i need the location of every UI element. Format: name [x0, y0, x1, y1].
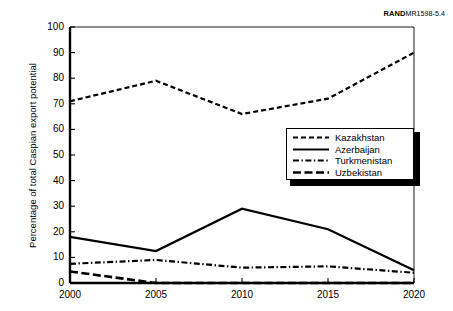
legend-line-swatch-icon: [292, 132, 330, 143]
chart-legend: KazakhstanAzerbaijanTurkmenistanUzbekist…: [286, 128, 418, 184]
legend-item-label: Uzbekistan: [330, 167, 382, 178]
legend-item-label: Kazakhstan: [330, 132, 385, 143]
legend-item-label: Azerbaijan: [330, 144, 380, 155]
legend-item[interactable]: Kazakhstan: [292, 132, 409, 144]
figure-container: RANDMR1598-5.4 Percentage of total Caspi…: [0, 0, 453, 311]
legend-box: KazakhstanAzerbaijanTurkmenistanUzbekist…: [286, 128, 414, 180]
legend-line-swatch-icon: [292, 167, 330, 178]
series-line-turkmenistan: [70, 260, 414, 273]
legend-line-swatch-icon: [292, 155, 330, 166]
legend-item[interactable]: Turkmenistan: [292, 155, 409, 167]
legend-item[interactable]: Azerbaijan: [292, 144, 409, 156]
legend-line-swatch-icon: [292, 144, 330, 155]
legend-item-label: Turkmenistan: [330, 155, 392, 166]
series-line-kazakhstan: [70, 53, 414, 114]
legend-item[interactable]: Uzbekistan: [292, 167, 409, 179]
